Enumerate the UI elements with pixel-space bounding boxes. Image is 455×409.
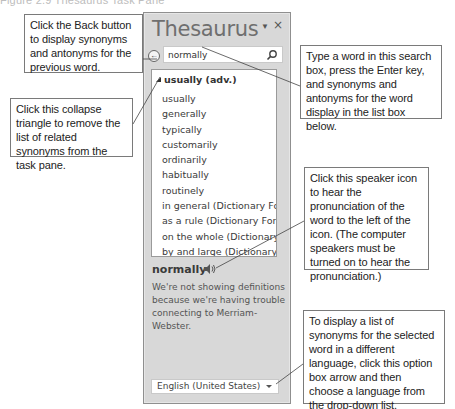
list-item[interactable]: as a rule (Dictionary Form) xyxy=(162,213,277,228)
list-item[interactable]: typically xyxy=(162,122,277,137)
callout-collapse-triangle: Click this collapse triangle to remove t… xyxy=(10,98,133,157)
list-item[interactable]: generally xyxy=(162,106,277,121)
list-group-label: usually (adv.) xyxy=(164,74,237,85)
back-button[interactable]: ← xyxy=(148,50,160,62)
list-item[interactable]: routinely xyxy=(162,183,277,198)
search-box[interactable] xyxy=(163,46,283,63)
figure-caption: Figure 2.9 Thesaurus Task Pane xyxy=(0,0,165,6)
callout-language-select: To display a list of synonyms for the se… xyxy=(303,310,445,404)
callout-search-box: Type a word in this search box, press th… xyxy=(300,45,442,119)
close-icon[interactable]: × xyxy=(273,18,283,32)
callout-back-button: Click the Back button to display synonym… xyxy=(24,14,143,73)
list-item[interactable]: in general (Dictionary Form) xyxy=(162,198,277,213)
collapse-triangle-icon[interactable] xyxy=(156,77,161,82)
list-item[interactable]: usually xyxy=(162,91,277,106)
list-item[interactable]: habitually xyxy=(162,167,277,182)
definition-word: normally xyxy=(152,263,206,276)
list-item[interactable]: by and large (Dictionary Form) xyxy=(162,244,277,257)
language-select[interactable]: English (United States) xyxy=(151,379,279,394)
search-input[interactable] xyxy=(168,48,264,61)
search-icon[interactable] xyxy=(266,49,278,61)
language-selected-value: English (United States) xyxy=(157,381,260,391)
synonym-list: usually generally typically customarily … xyxy=(162,91,277,257)
thesaurus-task-pane: Thesaurus ▼ × ← usually (adv.) usually g… xyxy=(143,12,291,404)
list-item[interactable]: customarily xyxy=(162,137,277,152)
list-group-header: usually (adv.) xyxy=(156,74,237,85)
back-arrow-icon: ← xyxy=(150,51,158,60)
speaker-icon[interactable] xyxy=(203,263,217,275)
callout-speaker-icon: Click this speaker icon to hear the pron… xyxy=(304,167,429,270)
task-pane-options-icon[interactable]: ▼ xyxy=(261,22,269,31)
definition-message: We're not showing definitions because we… xyxy=(152,281,286,333)
dropdown-arrow-icon[interactable] xyxy=(266,385,272,388)
list-item[interactable]: on the whole (Dictionary Form) xyxy=(162,229,277,244)
pane-title: Thesaurus xyxy=(152,17,258,41)
synonym-list-box[interactable]: usually (adv.) usually generally typical… xyxy=(151,69,277,257)
list-item[interactable]: ordinarily xyxy=(162,152,277,167)
